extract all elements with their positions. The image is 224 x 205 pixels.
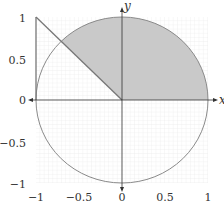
svg-text:0: 0 (19, 94, 26, 107)
svg-text:−0.5: −0.5 (66, 191, 93, 204)
svg-text:0: 0 (119, 191, 126, 204)
svg-text:−0.5: −0.5 (0, 137, 26, 150)
svg-text:1: 1 (205, 191, 212, 204)
svg-text:0.5: 0.5 (9, 54, 27, 67)
x-axis-left-arrow-icon (28, 98, 33, 102)
diagram: y x 1 0.5 0 −0.5 −1 −1 −0.5 0 0.5 1 (0, 0, 224, 205)
svg-text:−1: −1 (10, 178, 26, 191)
svg-text:−1: −1 (28, 191, 44, 204)
x-axis-label: x (219, 93, 224, 107)
y-axis-label: y (123, 0, 131, 13)
x-axis-right-arrow-icon (213, 98, 218, 102)
svg-text:0.5: 0.5 (156, 191, 174, 204)
y-tick-labels: 1 0.5 0 −0.5 −1 (0, 12, 26, 191)
x-tick-labels: −1 −0.5 0 0.5 1 (28, 191, 212, 204)
svg-text:1: 1 (19, 12, 26, 25)
